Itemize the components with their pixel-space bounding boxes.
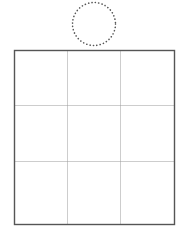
diagram-canvas: [0, 0, 183, 233]
grid-outer-border: [15, 51, 175, 225]
grid-dividers: [15, 51, 175, 225]
dotted-circle: [73, 3, 116, 46]
